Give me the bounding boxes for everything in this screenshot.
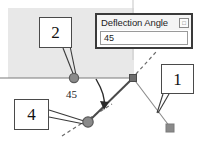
leader-line-callout-4: [49, 117, 84, 124]
deflection-angle-dialog[interactable]: Deflection Angle □ 45: [95, 13, 193, 49]
back-point-node[interactable]: [69, 73, 78, 82]
vertex-node-marker[interactable]: [130, 75, 137, 82]
callout-marker-4[interactable]: 4: [14, 99, 49, 130]
diagram-canvas: Deflection Angle □ 45 1 2 4 45: [0, 0, 203, 146]
ahead-point-node[interactable]: [83, 117, 93, 127]
leader-line-callout-2: [70, 46, 76, 75]
callout-marker-1[interactable]: 1: [161, 64, 194, 94]
leader-line-callout-2: [63, 48, 74, 76]
dialog-title-bar: Deflection Angle □: [97, 15, 191, 30]
end-point-marker[interactable]: [166, 124, 174, 132]
dialog-title: Deflection Angle: [101, 15, 179, 30]
leader-line-callout-4: [49, 110, 84, 121]
deflected-segment-line: [88, 78, 133, 122]
callout-label-4: 4: [27, 106, 36, 123]
callout-label-1: 1: [173, 71, 182, 88]
callout-label-2: 2: [51, 24, 60, 41]
deflection-angle-input[interactable]: 45: [100, 31, 188, 45]
dialog-close-icon[interactable]: □: [179, 18, 189, 28]
callout-marker-2[interactable]: 2: [39, 17, 72, 48]
upper-dashed-tangent: [136, 52, 156, 74]
angle-value-label: 45: [66, 89, 77, 100]
